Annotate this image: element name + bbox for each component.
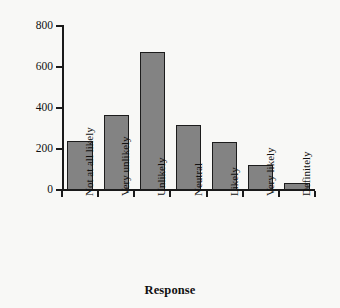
category-label-very-likely: Very likely	[265, 147, 276, 196]
y-tick-label-400: 400	[13, 102, 53, 114]
x-axis-title: Response	[0, 283, 340, 298]
category-label-likely: Likely	[229, 167, 240, 196]
category-label-definitely: Definitely	[301, 151, 312, 196]
x-tick-6	[278, 191, 280, 197]
plot-area	[62, 26, 315, 190]
x-tick-2	[133, 191, 135, 197]
y-tick-label-800: 800	[13, 20, 53, 32]
category-label-unlikely: Unlikely	[156, 158, 167, 197]
x-tick-1	[97, 191, 99, 197]
y-tick-label-600: 600	[13, 61, 53, 73]
x-tick-edge-7	[314, 191, 316, 197]
x-tick-edge-0	[61, 191, 63, 197]
y-tick-label-0: 0	[13, 184, 53, 196]
x-tick-4	[206, 191, 208, 197]
category-label-not-at-all-likely: Not at all likely	[84, 127, 95, 196]
bar-chart-figure: Number of Responses 0200400600800 Not at…	[0, 0, 340, 308]
x-tick-3	[169, 191, 171, 197]
y-tick-label-200: 200	[13, 143, 53, 155]
x-tick-5	[242, 191, 244, 197]
category-label-very-unlikely: Very unlikely	[120, 136, 131, 196]
category-label-neutral: Neutral	[193, 163, 204, 196]
